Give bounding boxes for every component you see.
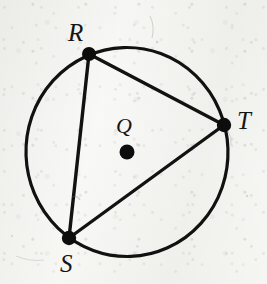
- point-label-S: S: [60, 251, 73, 276]
- chord-ST-line: [69, 125, 224, 238]
- geometry-figure: R T S Q: [0, 0, 267, 284]
- circle-diagram-canvas: [0, 0, 267, 284]
- point-R-dot: [82, 47, 96, 61]
- chord-RS-line: [69, 54, 89, 238]
- center-point-Q-dot: [120, 145, 135, 160]
- point-label-T: T: [237, 108, 251, 133]
- center-label-Q: Q: [116, 115, 132, 137]
- scan-artifacts: [11, 16, 248, 261]
- chord-RT-line: [89, 54, 224, 125]
- point-label-R: R: [68, 20, 83, 45]
- point-T-dot: [217, 118, 231, 132]
- point-S-dot: [62, 231, 76, 245]
